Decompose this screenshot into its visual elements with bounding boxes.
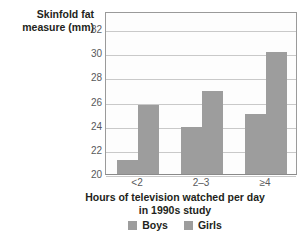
bar-girls-2 <box>266 52 287 174</box>
bar-girls-0 <box>138 105 159 174</box>
y-tick-label: 28 <box>72 73 102 83</box>
legend: BoysGirls <box>52 220 298 231</box>
y-tick-label: 24 <box>72 122 102 132</box>
bar-boys-1 <box>181 127 202 174</box>
x-axis-title: Hours of television watched per day in 1… <box>52 191 298 217</box>
bar-boys-0 <box>117 160 138 174</box>
y-tick-label: 22 <box>72 146 102 156</box>
bars-layer <box>106 13 296 174</box>
legend-item-boys: Boys <box>128 220 168 231</box>
plot-area <box>105 12 297 175</box>
x-axis-title-line-2: in 1990s study <box>52 204 298 217</box>
bar-girls-1 <box>202 91 223 174</box>
legend-label: Girls <box>198 220 222 231</box>
x-tick-label: ≥4 <box>259 177 270 189</box>
x-axis-title-line-1: Hours of television watched per day <box>52 191 298 204</box>
legend-swatch-icon <box>184 221 193 230</box>
x-tick-label: 2–3 <box>193 177 210 189</box>
y-tick-label: 32 <box>72 25 102 35</box>
legend-label: Boys <box>142 220 168 231</box>
legend-swatch-icon <box>128 221 137 230</box>
x-axis-tick-labels: <22–3≥4 <box>105 177 297 191</box>
bar-boys-2 <box>245 114 266 174</box>
skinfold-fat-bar-chart: Skinfold fat measure (mm) 20222426283032… <box>0 0 308 241</box>
legend-item-girls: Girls <box>184 220 222 231</box>
y-tick-label: 26 <box>72 98 102 108</box>
y-tick-label: 20 <box>72 170 102 180</box>
y-axis-tick-labels: 20222426283032 <box>72 12 102 175</box>
y-tick-label: 30 <box>72 49 102 59</box>
x-tick-label: <2 <box>131 177 142 189</box>
